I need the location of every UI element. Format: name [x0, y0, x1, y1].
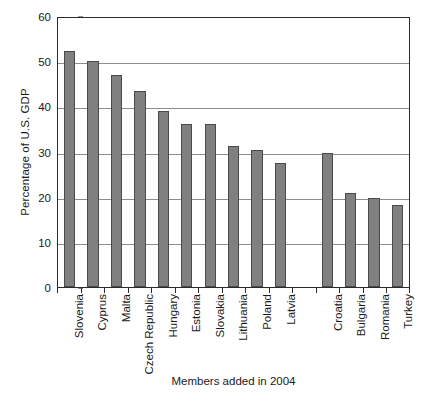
x-label-slot: Cyprus	[81, 294, 105, 370]
bar-slot	[128, 18, 151, 287]
x-label-slot	[292, 294, 316, 370]
x-tick-mark	[175, 288, 176, 293]
bar-slot	[175, 18, 198, 287]
bar[interactable]	[87, 61, 98, 287]
bar-slot	[386, 18, 409, 287]
y-tick-label: 50	[38, 56, 51, 68]
bar-slot	[269, 18, 292, 287]
bar[interactable]	[251, 150, 262, 287]
x-label-slot: Latvia	[269, 294, 293, 370]
bar-slot	[58, 18, 81, 287]
x-label-slot: Lithuania	[222, 294, 246, 370]
bar[interactable]	[64, 51, 75, 287]
bar[interactable]	[392, 205, 403, 287]
bar-chart-figure: Percentage of U.S. GDP 0102030405060 Slo…	[0, 0, 432, 404]
y-tick-label: 0	[45, 282, 51, 294]
x-tick-mark	[316, 288, 317, 293]
x-label-slot: Turkey	[386, 294, 410, 370]
bar-slot	[105, 18, 128, 287]
x-label-slot: Czech Republic	[128, 294, 152, 370]
x-label-slot: Poland	[245, 294, 269, 370]
bar[interactable]	[158, 111, 169, 287]
x-axis-tick-marks	[57, 288, 410, 293]
x-tick-mark	[151, 288, 152, 293]
bars-container	[58, 18, 409, 287]
x-label-slot: Estonia	[175, 294, 199, 370]
y-tick-label: 10	[38, 237, 51, 249]
x-tick-mark	[57, 288, 58, 293]
bar-slot	[198, 18, 221, 287]
x-tick-mark	[292, 288, 293, 293]
bar[interactable]	[205, 124, 216, 287]
y-tick-label: 60	[38, 11, 51, 23]
bar[interactable]	[275, 163, 286, 287]
x-tick-mark	[104, 288, 105, 293]
x-tick-mark	[269, 288, 270, 293]
x-axis-category-labels: SloveniaCyprusMaltaCzech RepublicHungary…	[57, 294, 410, 370]
bar[interactable]	[368, 198, 379, 287]
x-label-slot: Slovenia	[57, 294, 81, 370]
x-tick-mark	[363, 288, 364, 293]
x-tick-mark	[386, 288, 387, 293]
x-tick-mark	[128, 288, 129, 293]
bar-slot	[362, 18, 385, 287]
y-tick-label: 20	[38, 192, 51, 204]
bar[interactable]	[345, 193, 356, 287]
x-tick-mark	[409, 288, 410, 293]
bar[interactable]	[111, 75, 122, 287]
bar-slot	[81, 18, 104, 287]
x-tick-mark	[339, 288, 340, 293]
x-axis-title: Members added in 2004	[57, 375, 410, 387]
bar-slot	[245, 18, 268, 287]
x-tick-mark	[222, 288, 223, 293]
bar-slot	[152, 18, 175, 287]
x-label-slot: Romania	[363, 294, 387, 370]
bar[interactable]	[322, 153, 333, 287]
plot-area	[57, 17, 410, 288]
y-tick-label: 40	[38, 101, 51, 113]
bar[interactable]	[228, 146, 239, 287]
bar-slot	[222, 18, 245, 287]
bar-slot	[292, 18, 315, 287]
y-axis-tick-labels: 0102030405060	[26, 17, 51, 288]
x-tick-mark	[198, 288, 199, 293]
x-label-slot: Malta	[104, 294, 128, 370]
x-tick-mark	[245, 288, 246, 293]
x-tick-mark	[81, 288, 82, 293]
x-label-slot: Slovakia	[198, 294, 222, 370]
bar-slot	[339, 18, 362, 287]
y-tick-label: 30	[38, 147, 51, 159]
x-label-slot: Bulgaria	[339, 294, 363, 370]
bar-slot	[315, 18, 338, 287]
x-label-slot: Croatia	[316, 294, 340, 370]
bar[interactable]	[134, 91, 145, 287]
bar[interactable]	[181, 124, 192, 287]
x-tick-label: Turkey	[403, 294, 415, 329]
x-label-slot: Hungary	[151, 294, 175, 370]
